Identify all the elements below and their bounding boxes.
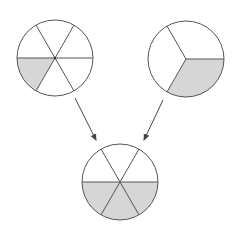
shaded-half: [82, 182, 158, 220]
pie-circle-sixths-one-shaded: [17, 20, 93, 96]
diagram-canvas: [0, 0, 236, 226]
arrow-left-to-result: [75, 98, 96, 140]
shaded-sector: [17, 58, 55, 91]
pie-circle-thirds-one-shaded: [148, 21, 224, 97]
pie-circle-sixths-three-shaded: [82, 144, 158, 220]
fraction-diagram: Fraction addition: 1/6 + 1/3 = 1/2 shown…: [0, 0, 236, 226]
arrow-right-to-result: [144, 100, 163, 140]
